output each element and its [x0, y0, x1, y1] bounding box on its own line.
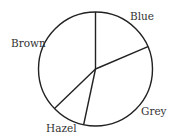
divider-grey-hazel: [84, 69, 96, 125]
label-brown: Brown: [11, 37, 46, 49]
pie-chart: Blue Grey Hazel Brown: [0, 0, 169, 140]
slice-labels: Blue Grey Hazel Brown: [11, 10, 167, 134]
label-hazel: Hazel: [46, 122, 77, 134]
slice-dividers: [55, 12, 148, 125]
label-grey: Grey: [141, 105, 167, 117]
divider-blue-grey: [96, 47, 148, 69]
divider-hazel-brown: [55, 69, 96, 109]
label-blue: Blue: [130, 10, 154, 22]
